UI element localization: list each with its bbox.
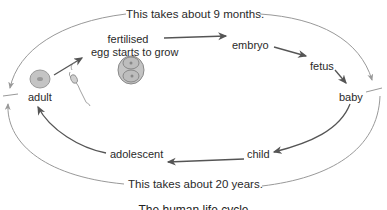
arrow-egg-to-embryo <box>164 36 226 38</box>
duration-20-years: This takes about 20 years. <box>128 178 263 190</box>
arrow-fetus-to-baby <box>335 70 346 83</box>
arrow-adolescent-to-adult <box>38 107 106 153</box>
stage-fetus: fetus <box>310 60 334 72</box>
outer-arc-bottom-left <box>8 104 124 184</box>
arrow-baby-to-child <box>274 104 350 152</box>
outer-arc-bottom-right <box>262 96 380 186</box>
egg-cell-icon <box>30 70 50 88</box>
dividing-cells-icon <box>118 56 144 84</box>
arrow-embryo-to-fetus <box>274 47 306 56</box>
diagram-caption: The human life cycle <box>0 203 387 210</box>
stage-fertilised: fertilised <box>86 33 170 45</box>
stage-adolescent: adolescent <box>110 148 163 160</box>
tick-left <box>3 94 18 96</box>
stage-embryo: embryo <box>232 39 269 51</box>
arrow-adult-to-egg <box>54 58 82 75</box>
sperm-icon <box>69 62 90 106</box>
tick-right <box>366 88 382 92</box>
stage-egg-starts-to-grow: egg starts to grow <box>91 46 178 58</box>
arrow-child-to-adolescent <box>168 159 244 162</box>
duration-9-months: This takes about 9 months. <box>126 8 264 20</box>
stage-adult: adult <box>28 91 52 103</box>
stage-child: child <box>247 148 270 160</box>
stage-baby: baby <box>339 91 363 103</box>
